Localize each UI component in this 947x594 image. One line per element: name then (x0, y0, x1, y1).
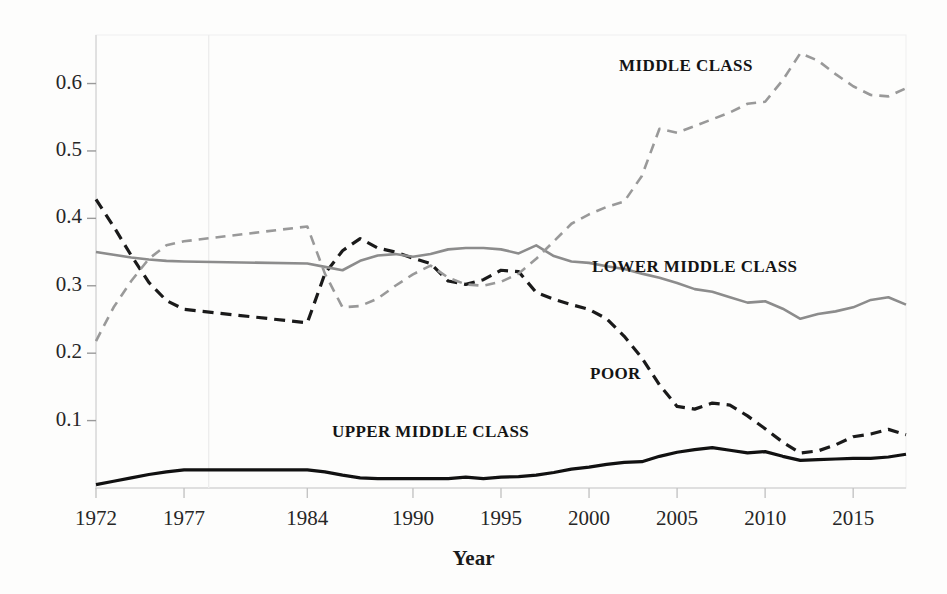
line-chart-canvas (0, 0, 947, 594)
series-annotation-upper-middle-class: UPPER MIDDLE CLASS (332, 422, 529, 442)
y-tick-label: 0.4 (14, 204, 82, 229)
series-line-upper-middle-class (96, 448, 906, 485)
x-tick-label: 1995 (451, 506, 551, 531)
x-tick-label: 2005 (627, 506, 727, 531)
x-tick-label: 2015 (803, 506, 903, 531)
series-annotation-poor: POOR (590, 364, 641, 384)
y-tick-label: 0.3 (14, 272, 82, 297)
x-tick-label: 1990 (363, 506, 463, 531)
x-tick-label: 2010 (715, 506, 815, 531)
y-tick-label: 0.6 (14, 70, 82, 95)
y-tick-label: 0.1 (14, 407, 82, 432)
series-annotation-middle-class: MIDDLE CLASS (619, 56, 753, 76)
series-line-middle-class (96, 53, 906, 341)
y-tick-label: 0.5 (14, 137, 82, 162)
x-tick-label: 2000 (539, 506, 639, 531)
series-annotation-lower-middle-class: LOWER MIDDLE CLASS (592, 257, 798, 277)
x-axis-title: Year (0, 546, 947, 571)
chart-figure: 0.10.20.30.40.50.6 197219771984199019952… (0, 0, 947, 594)
x-tick-label: 1977 (134, 506, 234, 531)
x-tick-label: 1984 (257, 506, 357, 531)
y-tick-label: 0.2 (14, 339, 82, 364)
x-tick-label: 1972 (46, 506, 146, 531)
